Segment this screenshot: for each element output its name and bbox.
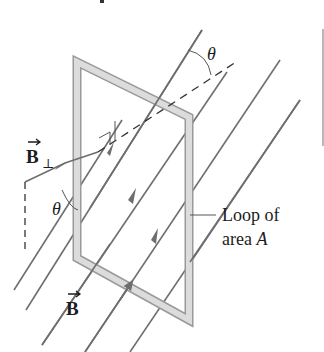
theta-label-left: θ [52,199,61,219]
vector-arrow-icon [28,139,40,145]
b-perp-label: B ⊥ [26,139,54,171]
field-arrows [107,142,158,244]
loop-label-line1: Loop of [222,205,280,225]
theta-label-top: θ [207,44,216,64]
svg-text:B: B [66,298,79,319]
right-angle-marker [99,121,115,145]
svg-text:⊥: ⊥ [42,156,54,171]
arrow-icon [128,188,136,204]
cropped-text-fragment [100,0,104,3]
flux-diagram: θ θ B ⊥ B Loop of area A [0,0,324,352]
arrow-icon [151,228,158,244]
b-field-label: B [66,291,80,319]
loop-label-line2: area A [222,229,268,249]
svg-text:B: B [26,146,39,167]
